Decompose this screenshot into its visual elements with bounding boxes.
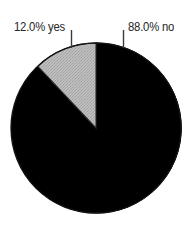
pie-chart: 12.0% yes 88.0% no bbox=[0, 0, 194, 228]
pie-label-yes: 12.0% yes bbox=[14, 21, 65, 34]
pie-chart-canvas bbox=[0, 0, 194, 228]
pie-label-no: 88.0% no bbox=[128, 21, 174, 34]
